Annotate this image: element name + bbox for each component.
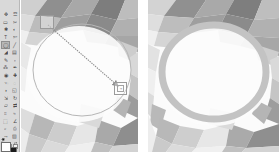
clone-tool[interactable]: ◉	[1, 72, 10, 80]
bucket-fill-tool-icon: ◢	[4, 51, 8, 56]
rotate-tool-icon: ↻	[13, 96, 17, 101]
rotate-tool[interactable]: ↻	[10, 95, 19, 103]
scissors-select-tool-icon: ✄	[13, 35, 17, 40]
heal-tool-icon: ✚	[13, 73, 17, 78]
shear-tool[interactable]: ▱	[1, 102, 10, 110]
crop-tool-icon: ⌗	[4, 111, 7, 116]
heal-tool[interactable]: ✚	[10, 72, 19, 80]
pencil-tool-icon: ╱	[13, 43, 16, 48]
after-canvas[interactable]	[148, 0, 279, 152]
paintbrush-tool[interactable]: ✎	[1, 57, 10, 65]
paintbrush-tool-icon: ✎	[4, 58, 8, 63]
stroked-ellipse-ring	[162, 25, 266, 119]
reset-colors-icon[interactable]	[1, 138, 5, 142]
selection-overlay	[21, 0, 138, 152]
warp-tool-icon: ≈	[13, 111, 15, 116]
toolbox-panel: ✥☲▭✂✱◐T✄◯╱◢▤✎▫⁂✒◉✚☜◌◑◱⇲↻▱⇄⌗≈⬚∠⌕⎙⤳▨	[0, 0, 20, 152]
color-picker-tool[interactable]: ⎙	[10, 125, 19, 133]
ink-tool[interactable]: ✒	[10, 64, 19, 72]
before-canvas[interactable]: ⌖	[21, 0, 138, 152]
drag-direction-arrow	[48, 25, 118, 86]
alignment-tool[interactable]: ☲	[10, 11, 19, 19]
cage-transform-tool[interactable]: ⬚	[1, 117, 10, 125]
dodge-burn-tool[interactable]: ◑	[1, 87, 10, 95]
rectangle-select-tool-icon: ▭	[3, 20, 8, 25]
foreground-color-swatch[interactable]	[1, 142, 11, 152]
smudge-tool[interactable]: ☜	[1, 79, 10, 87]
dodge-burn-tool-icon: ◑	[4, 88, 7, 93]
ellipse-selection-marquee[interactable]	[33, 24, 131, 116]
pencil-tool[interactable]: ╱	[10, 41, 19, 49]
resize-cursor-icon: ⌖	[117, 85, 124, 92]
gradient-tool-icon: ▤	[12, 51, 17, 56]
airbrush-tool-icon: ⁂	[3, 66, 8, 71]
select-by-color-tool-icon: ◐	[13, 28, 16, 33]
tool-grid: ✥☲▭✂✱◐T✄◯╱◢▤✎▫⁂✒◉✚☜◌◑◱⇲↻▱⇄⌗≈⬚∠⌕⎙⤳▨	[0, 0, 19, 140]
stroke-result-overlay	[148, 0, 279, 152]
smudge-tool-icon: ☜	[4, 81, 8, 86]
ink-tool-icon: ✒	[13, 66, 17, 71]
free-select-tool-icon: ✂	[13, 20, 17, 25]
foreground-select-icon: ▨	[12, 134, 17, 139]
select-by-color-tool[interactable]: ◐	[10, 26, 19, 34]
zoom-tool[interactable]: ⌕	[1, 125, 10, 133]
gradient-tool[interactable]: ▤	[10, 49, 19, 57]
airbrush-tool[interactable]: ⁂	[1, 64, 10, 72]
alignment-tool-icon: ☲	[13, 13, 17, 18]
selection-handle-top-left[interactable]	[40, 15, 54, 29]
measure-tool-icon: ∠	[13, 119, 17, 124]
warp-tool[interactable]: ≈	[10, 110, 19, 118]
scissors-select-tool[interactable]: ✄	[10, 34, 19, 42]
move-tool[interactable]: ✥	[1, 11, 10, 19]
zoom-tool-icon: ⌕	[4, 126, 7, 131]
crop-tool[interactable]: ⌗	[1, 110, 10, 118]
blur-sharpen-tool[interactable]: ◌	[10, 79, 19, 87]
color-picker-tool-icon: ⎙	[13, 126, 17, 131]
bucket-fill-tool[interactable]: ◢	[1, 49, 10, 57]
move-tool-icon: ✥	[4, 13, 8, 18]
ellipse-select-tool[interactable]: ◯	[1, 41, 10, 49]
rectangle-select-tool[interactable]: ▭	[1, 19, 10, 27]
app-window: ✥☲▭✂✱◐T✄◯╱◢▤✎▫⁂✒◉✚☜◌◑◱⇲↻▱⇄⌗≈⬚∠⌕⎙⤳▨	[0, 0, 279, 152]
perspective-tool-icon: ◱	[12, 88, 17, 93]
text-tool-icon: T	[4, 35, 7, 40]
eraser-tool-icon: ▫	[14, 58, 16, 63]
fuzzy-select-tool[interactable]: ✱	[1, 26, 10, 34]
eraser-tool[interactable]: ▫	[10, 57, 19, 65]
clone-tool-icon: ◉	[4, 73, 8, 78]
text-tool[interactable]: T	[1, 34, 10, 42]
flip-tool-icon: ⇄	[13, 104, 17, 109]
panel-divider	[138, 0, 148, 152]
cage-transform-tool-icon: ⬚	[3, 119, 8, 124]
ellipse-select-tool-icon: ◯	[3, 43, 8, 48]
scale-tool-icon: ⇲	[4, 96, 8, 101]
selection-handle-bottom-right[interactable]: ⌖	[114, 82, 127, 95]
flip-tool[interactable]: ⇄	[10, 102, 19, 110]
perspective-tool[interactable]: ◱	[10, 87, 19, 95]
free-select-tool[interactable]: ✂	[10, 19, 19, 27]
fuzzy-select-tool-icon: ✱	[4, 28, 8, 33]
blur-sharpen-tool-icon: ◌	[13, 81, 16, 86]
scale-tool[interactable]: ⇲	[1, 95, 10, 103]
foreground-select[interactable]: ▨	[10, 133, 19, 141]
measure-tool[interactable]: ∠	[10, 117, 19, 125]
swap-colors-icon[interactable]	[14, 142, 18, 146]
shear-tool-icon: ▱	[4, 104, 8, 109]
